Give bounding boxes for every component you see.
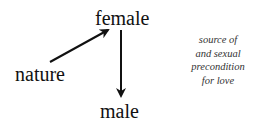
note-line: precondition	[180, 60, 256, 74]
node-male: male	[100, 101, 139, 121]
note-line: source of	[180, 33, 256, 47]
arrow-nature-to-female	[50, 30, 108, 62]
node-female: female	[95, 8, 149, 28]
note-line: for love	[180, 74, 256, 88]
note-line: and sexual	[180, 47, 256, 61]
annotation-note: source of and sexual precondition for lo…	[180, 33, 256, 87]
node-nature: nature	[15, 64, 65, 84]
